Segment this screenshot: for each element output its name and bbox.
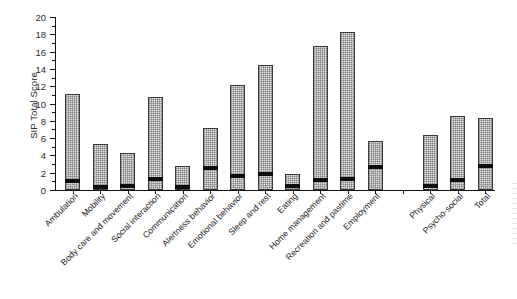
median-marker [93, 185, 108, 189]
sip-total-score-bar-chart: SIP Total Score 02468101214161820 Ambula… [0, 0, 517, 299]
median-marker [120, 184, 135, 188]
median-marker [478, 164, 493, 168]
median-marker [450, 178, 465, 182]
x-tick-label: Total [472, 191, 492, 211]
y-tick: 6 [50, 138, 55, 139]
y-tick: 16 [50, 52, 55, 53]
bar [175, 166, 190, 190]
bar [478, 118, 493, 190]
y-tick-label: 6 [41, 133, 46, 144]
y-tick-label: 4 [41, 150, 46, 161]
y-tick: 20 [50, 17, 55, 18]
y-tick-label: 8 [41, 115, 46, 126]
scan-edge-artifact [512, 182, 517, 244]
bar [368, 141, 383, 190]
y-tick-minor [52, 95, 55, 96]
y-tick: 4 [50, 155, 55, 156]
y-tick: 14 [50, 69, 55, 70]
y-tick: 18 [50, 34, 55, 35]
bar [313, 46, 328, 190]
y-tick-minor [52, 129, 55, 130]
bar [258, 65, 273, 190]
y-tick-minor [52, 60, 55, 61]
median-marker [423, 184, 438, 188]
x-tick-label: Ambulation [42, 191, 79, 228]
median-marker [203, 166, 218, 170]
y-tick-minor [52, 26, 55, 27]
y-tick: 8 [50, 121, 55, 122]
bar [203, 128, 218, 190]
y-tick-label: 12 [35, 81, 46, 92]
y-tick-label: 2 [41, 167, 46, 178]
y-tick-label: 18 [35, 29, 46, 40]
median-marker [313, 178, 328, 182]
median-marker [340, 177, 355, 181]
y-tick-minor [52, 78, 55, 79]
bar [120, 153, 135, 190]
y-tick: 2 [50, 173, 55, 174]
y-tick-minor [52, 43, 55, 44]
median-marker [285, 184, 300, 188]
y-tick-label: 16 [35, 46, 46, 57]
bar [450, 116, 465, 190]
bar [423, 135, 438, 190]
median-marker [175, 185, 190, 189]
y-tick-label: 0 [41, 185, 46, 196]
median-marker [148, 177, 163, 181]
median-marker [258, 172, 273, 176]
y-tick-label: 14 [35, 63, 46, 74]
y-tick-label: 20 [35, 12, 46, 23]
x-tick-label: Eating [276, 191, 300, 215]
y-tick-label: 10 [35, 98, 46, 109]
y-tick-minor [52, 181, 55, 182]
median-marker [368, 165, 383, 169]
y-tick-minor [52, 112, 55, 113]
y-tick: 12 [50, 86, 55, 87]
x-axis-labels: AmbulationMobilityBody care and movement… [55, 191, 517, 299]
bar [230, 85, 245, 190]
plot-area: 02468101214161820 [55, 17, 495, 190]
median-marker [230, 174, 245, 178]
y-tick: 10 [50, 104, 55, 105]
y-tick-minor [52, 164, 55, 165]
bar [93, 144, 108, 190]
bar [285, 174, 300, 190]
bar [148, 97, 163, 190]
y-tick-minor [52, 147, 55, 148]
median-marker [65, 179, 80, 183]
bar [340, 32, 355, 190]
y-axis-line [55, 17, 56, 190]
bar [65, 94, 80, 190]
